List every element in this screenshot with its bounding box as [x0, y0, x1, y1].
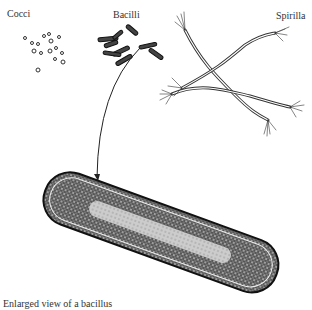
- cocci-group: [24, 33, 66, 73]
- spirilla-group: [160, 12, 304, 136]
- diagram-canvas: [0, 0, 312, 310]
- arrow: [94, 48, 140, 181]
- bacilli-group: [98, 24, 164, 66]
- enlarged-bacillus: [36, 165, 286, 300]
